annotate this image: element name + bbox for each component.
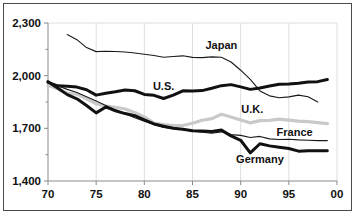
y-axis-tick-labels: 1,4001,7002,0002,300	[12, 17, 41, 187]
line-chart: 1,4001,7002,0002,300 70758085909500 Japa…	[0, 0, 356, 215]
x-tick-label: 85	[186, 188, 199, 200]
x-tick-label: 95	[282, 188, 295, 200]
x-tick-label: 75	[90, 188, 103, 200]
y-tick-label: 2,000	[12, 70, 41, 82]
y-tick-label: 1,400	[12, 175, 41, 187]
y-tick-label: 1,700	[12, 122, 41, 134]
series-label-uk: U.K.	[241, 103, 263, 115]
x-axis-tick-labels: 70758085909500	[42, 188, 344, 200]
series-label-france: France	[277, 126, 313, 138]
x-tick-label: 70	[42, 188, 55, 200]
y-tick-label: 2,300	[12, 17, 41, 29]
x-tick-label: 90	[234, 188, 247, 200]
series-label-japan: Japan	[206, 39, 238, 51]
series-label-us: U.S.	[153, 80, 174, 92]
x-tick-label: 80	[138, 188, 151, 200]
x-tick-label: 00	[331, 188, 344, 200]
series-label-germany: Germany	[236, 153, 285, 165]
chart-figure: 1,4001,7002,0002,300 70758085909500 Japa…	[0, 0, 356, 215]
